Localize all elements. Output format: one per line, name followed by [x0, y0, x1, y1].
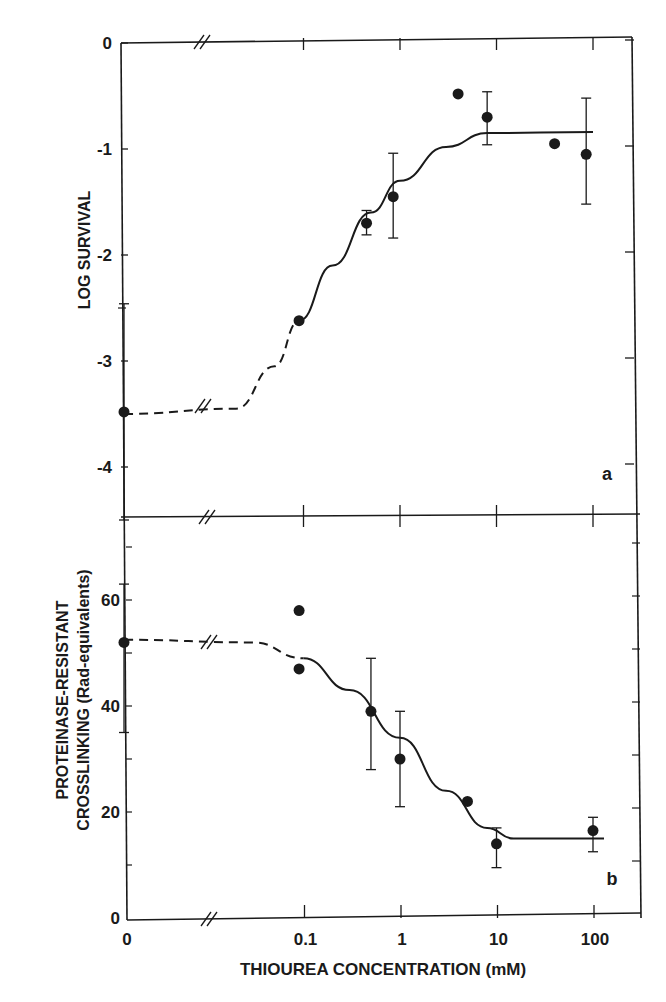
- figure: 00.11101000-1-2-3-40204060 LOG SURVIVAL …: [0, 0, 666, 1002]
- panel-a-data-point: [581, 149, 592, 160]
- panel-a-data-point: [119, 406, 130, 417]
- y-tick-label-top: -2: [97, 246, 112, 265]
- y-tick-label-bottom: 40: [101, 697, 120, 716]
- panel-label-a: a: [602, 464, 613, 484]
- y-tick-label-top: -4: [97, 458, 113, 477]
- panel-a-data-point: [549, 138, 560, 149]
- panel-b-data-point: [294, 663, 305, 674]
- panel-b-data-point: [588, 825, 599, 836]
- panel-b-data-point: [365, 706, 376, 717]
- y-tick-label-bottom: 20: [101, 803, 120, 822]
- fit-curve-a-dashed: [124, 321, 299, 414]
- panel-b-data-point: [395, 754, 406, 765]
- x-tick-label: 1: [397, 930, 406, 949]
- panel-a-data-point: [482, 112, 493, 123]
- axis-break-mark: [201, 399, 211, 413]
- bottom-y-axis-title-line1: PROTEINASE-RESISTANT: [54, 600, 71, 799]
- panel-a-data-point: [453, 88, 464, 99]
- x-tick-label: 0: [122, 930, 131, 949]
- chart-svg: 00.11101000-1-2-3-40204060 LOG SURVIVAL …: [0, 0, 666, 1002]
- top-y-axis-title: LOG SURVIVAL: [76, 191, 93, 310]
- panel-b-data-point: [462, 796, 473, 807]
- x-axis-title: THIOUREA CONCENTRATION (mM): [240, 960, 526, 979]
- top-frame: [121, 37, 632, 43]
- fit-curve-b-solid: [304, 658, 604, 838]
- panel-a-data-point: [361, 218, 372, 229]
- panel-a-data-point: [388, 191, 399, 202]
- bottom-x-axis: [127, 913, 641, 920]
- panel-b-data-point: [491, 838, 502, 849]
- panel-label-b: b: [607, 869, 618, 889]
- panel-a-data-point: [294, 315, 305, 326]
- bottom-y-axis-title-line2: CROSSLINKING (Rad-equivalents): [75, 569, 92, 830]
- right-frame: [632, 37, 641, 918]
- x-tick-label: 0.1: [294, 930, 318, 949]
- fit-curve-b-dashed: [124, 640, 304, 659]
- panel-b-data-point: [294, 605, 305, 616]
- y-tick-label-top: 0: [103, 34, 112, 53]
- plot-layer: 00.11101000-1-2-3-40204060: [97, 34, 640, 949]
- axis-break-mark: [195, 399, 205, 413]
- y-tick-label-top: -3: [97, 352, 112, 371]
- x-tick-label: 10: [489, 930, 508, 949]
- x-tick-label: 100: [581, 930, 609, 949]
- fit-curve-a-solid: [299, 132, 593, 321]
- panel-b-data-point: [119, 637, 130, 648]
- panel-divider-axis: [121, 514, 640, 517]
- y-tick-label-bottom: 60: [101, 591, 120, 610]
- y-tick-label-top: -1: [97, 140, 112, 159]
- y-tick-label-bottom: 0: [111, 909, 120, 928]
